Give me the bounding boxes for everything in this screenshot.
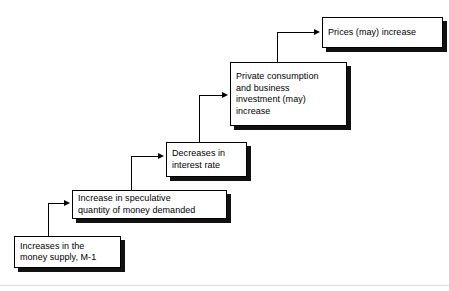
- node-money-supply[interactable]: Increases in the money supply, M-1: [14, 236, 121, 268]
- node-interest-rate-label: Decreases in interest rate: [167, 148, 230, 171]
- connector-segment-vertical: [48, 203, 49, 236]
- flowchart-canvas: Prices (may) increase Private consumptio…: [0, 0, 449, 291]
- node-prices[interactable]: Prices (may) increase: [322, 17, 443, 48]
- arrowhead-icon: [64, 200, 70, 206]
- clipped-top-caption: [6, 0, 443, 3]
- arrowhead-icon: [314, 29, 320, 35]
- connector-segment-horizontal: [199, 95, 224, 96]
- node-private-consumption[interactable]: Private consumption and business investm…: [230, 62, 347, 126]
- arrowhead-icon: [222, 92, 228, 98]
- node-prices-label: Prices (may) increase: [323, 27, 421, 39]
- node-speculative-demand[interactable]: Increase in speculative quantity of mone…: [72, 190, 227, 219]
- node-private-consumption-label: Private consumption and business investm…: [231, 71, 324, 117]
- connector-segment-vertical: [277, 32, 278, 62]
- connector-segment-vertical: [199, 95, 200, 142]
- node-money-supply-label: Increases in the money supply, M-1: [15, 241, 101, 264]
- connector-segment-vertical: [131, 156, 132, 190]
- node-speculative-demand-label: Increase in speculative quantity of mone…: [73, 193, 200, 216]
- node-interest-rate[interactable]: Decreases in interest rate: [166, 142, 247, 177]
- arrowhead-icon: [158, 153, 164, 159]
- connector-segment-horizontal: [277, 32, 316, 33]
- connector-segment-horizontal: [131, 156, 160, 157]
- bottom-divider: [0, 285, 449, 286]
